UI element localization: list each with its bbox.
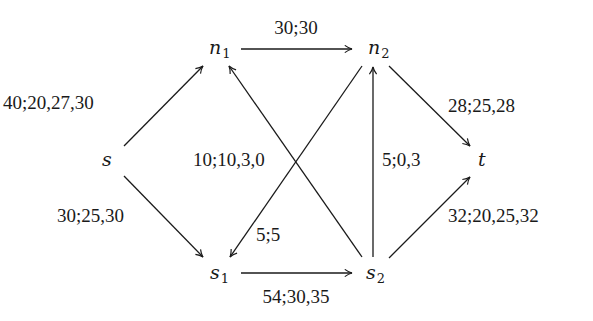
node-n2: n2 (368, 36, 390, 61)
edge-label-n2-s1: 5;5 (256, 224, 280, 245)
node-subscript: 1 (222, 46, 230, 61)
edge-arrow-s-n1 (124, 66, 203, 146)
nodes: n1n2sts1s2 (102, 36, 486, 286)
node-name: n (368, 36, 380, 58)
node-subscript: 2 (381, 46, 389, 61)
edge-label-s2-t: 32;20,25,32 (448, 205, 539, 226)
edge-label-s2-n1: 10;10,3,0 (193, 149, 265, 170)
edge-label-n1-n2: 30;30 (274, 17, 317, 38)
edge-label-s-s1: 30;25,30 (57, 205, 124, 226)
node-name: s (102, 148, 112, 170)
edge-label-s-n1: 40;20,27,30 (3, 92, 94, 113)
node-s: s (102, 148, 112, 170)
node-subscript: 2 (377, 271, 385, 286)
node-t: t (478, 148, 486, 170)
node-name: n (209, 36, 221, 58)
node-n1: n1 (209, 36, 231, 61)
edge-label-n2-t: 28;25,28 (448, 95, 515, 116)
flow-network-diagram: 40;20,27,3030;25,3030;3054;30,355;510;10… (0, 0, 593, 321)
edge-label-s2-n2: 5;0,3 (382, 149, 421, 170)
node-name: s (210, 261, 220, 283)
node-name: s (366, 261, 376, 283)
node-name: t (478, 148, 486, 170)
node-subscript: 1 (221, 271, 229, 286)
node-s1: s1 (210, 261, 229, 286)
edge-arrow-s-s1 (124, 176, 203, 257)
edge-label-s1-s2: 54;30,35 (262, 286, 329, 307)
edge-labels: 40;20,27,3030;25,3030;3054;30,355;510;10… (3, 17, 539, 307)
node-s2: s2 (366, 261, 385, 286)
